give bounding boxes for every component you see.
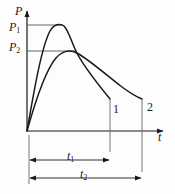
diagram-canvas [0,0,175,194]
y-axis-label: P [15,5,22,17]
curve-2-label: 2 [147,101,153,113]
pressure-time-diagram: P P1 P2 t 1 2 t1 t2 [0,0,175,194]
t1-subscript: 1 [70,155,74,164]
curve-2 [27,51,142,131]
p2-subscript: 2 [16,46,20,55]
t2-dimension-label: t2 [80,168,87,182]
p1-level-label: P1 [9,21,20,35]
x-axis-label: t [158,131,161,143]
t2-subscript: 2 [83,173,87,182]
p1-subscript: 1 [16,26,20,35]
curve-1 [27,24,110,131]
curve-1-label: 1 [113,103,119,115]
p2-level-label: P2 [9,41,20,55]
t1-dimension-label: t1 [67,150,74,164]
